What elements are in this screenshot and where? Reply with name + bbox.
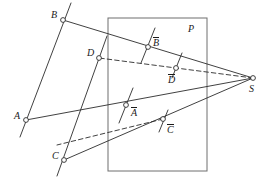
point-label-a: A: [14, 111, 20, 121]
point-label-bbar: B: [153, 38, 159, 48]
point-label-c: C: [52, 151, 59, 161]
geometry-figure: BDACBDACSP: [0, 0, 262, 187]
figure-canvas: [0, 0, 262, 187]
point-label-cbar: C: [167, 125, 174, 135]
point-label-abar: A: [131, 108, 137, 118]
point-marker-bbar: [146, 45, 151, 50]
line-AB: [20, 3, 71, 137]
point-marker-b: [61, 18, 66, 23]
point-label-b: B: [51, 10, 57, 20]
point-marker-abar: [124, 103, 129, 108]
point-marker-c: [62, 158, 67, 163]
point-marker-layer: [24, 18, 256, 163]
point-marker-d: [97, 56, 102, 61]
point-marker-cbar: [161, 117, 166, 122]
point-marker-a: [24, 118, 29, 123]
point-label-d: D: [87, 48, 94, 58]
ray-S-C: [64, 78, 253, 160]
point-label-s: S: [249, 84, 254, 94]
plane-label-p: P: [188, 24, 194, 34]
point-marker-dbar: [174, 66, 179, 71]
point-marker-s: [251, 76, 256, 81]
ray-S-A: [26, 78, 253, 120]
point-label-dbar: D: [168, 75, 175, 85]
